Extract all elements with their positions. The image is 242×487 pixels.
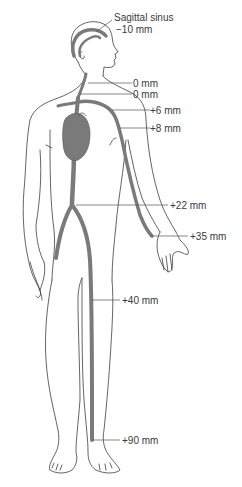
label-sagittal-sinus-title: Sagittal sinus <box>114 12 173 23</box>
label-subclavian-pressure: +6 mm <box>150 105 181 116</box>
label-sagittal-sinus-pressure: −10 mm <box>116 24 152 35</box>
left-iliac-vein <box>56 205 72 258</box>
label-abdomen-pressure: +22 mm <box>170 200 206 211</box>
heart <box>63 113 90 160</box>
label-neck-lower-pressure: 0 mm <box>133 89 158 100</box>
human-figure-drawing <box>0 0 242 487</box>
body-outline <box>23 22 188 473</box>
label-wrist-pressure: +35 mm <box>190 231 226 242</box>
label-ankle-pressure: +90 mm <box>122 435 158 446</box>
label-neck-upper-pressure: 0 mm <box>133 78 158 89</box>
sagittal-sinus-vein <box>73 30 106 56</box>
label-thigh-pressure: +40 mm <box>122 295 158 306</box>
arm-vein <box>78 101 152 236</box>
label-upper-arm-pressure: +8 mm <box>150 123 181 134</box>
venous-pressure-diagram: Sagittal sinus −10 mm 0 mm 0 mm +6 mm +8… <box>0 0 242 487</box>
